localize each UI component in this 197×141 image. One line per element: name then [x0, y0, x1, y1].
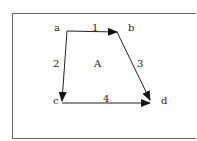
edge-label-2: 2 — [53, 58, 59, 69]
region-label-A: A — [93, 58, 102, 69]
edge-label-3: 3 — [137, 58, 143, 69]
node-label-b: b — [128, 22, 134, 33]
edge-label-1: 1 — [92, 22, 98, 33]
node-label-d: d — [161, 95, 168, 106]
diagram-frame — [13, 14, 197, 139]
edge-3-arrow — [117, 32, 150, 100]
diagram-canvas: a b c d 1 2 3 4 A — [0, 0, 196, 141]
node-label-a: a — [54, 22, 60, 33]
edge-label-4: 4 — [103, 93, 109, 104]
node-label-c: c — [53, 95, 59, 106]
edge-2-arrow — [62, 31, 67, 101]
